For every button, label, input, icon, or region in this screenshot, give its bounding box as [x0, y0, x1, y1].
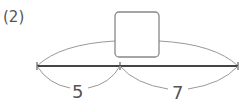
answer-box[interactable]	[115, 12, 159, 57]
right-arc-a	[120, 66, 168, 89]
left-arc-b	[88, 66, 120, 88]
segment-right-value: 7	[172, 82, 183, 103]
total-arc-left	[37, 41, 115, 66]
left-arc-a	[37, 66, 70, 88]
tape-diagram: 5 7	[0, 0, 252, 105]
diagram: (2) 5 7	[0, 0, 252, 105]
right-arc-b	[188, 66, 238, 89]
segment-left-value: 5	[72, 81, 83, 102]
total-arc-right	[159, 41, 238, 66]
